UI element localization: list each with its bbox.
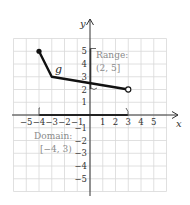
- x-tick-label: 5: [151, 117, 156, 127]
- y-tick-label: −5: [74, 174, 87, 184]
- x-tick-label: −3: [45, 117, 58, 127]
- y-axis-label: y: [79, 18, 86, 29]
- domain-title: Domain:: [34, 131, 72, 141]
- y-tick-label: 4: [82, 59, 87, 69]
- y-tick-label: −3: [74, 148, 87, 158]
- x-tick-label: −2: [58, 117, 71, 127]
- graph-of-g: x y −5−4−3−2−112345 54321−1−2−3−4−5 g Ra…: [0, 0, 190, 205]
- x-axis-label: x: [176, 118, 182, 129]
- x-tick-label: 3: [126, 117, 131, 127]
- range-value: (2, 5]: [96, 63, 120, 73]
- domain-value: [−4, 3): [40, 144, 72, 154]
- x-tick-label: −4: [33, 117, 46, 127]
- y-tick-label: −1: [74, 123, 87, 133]
- y-tick-label: −2: [74, 136, 87, 146]
- open-endpoint: [126, 87, 131, 92]
- x-tick-label: 1: [100, 117, 105, 127]
- y-tick-label: 5: [82, 46, 87, 56]
- function-label-g: g: [55, 63, 62, 76]
- closed-endpoint: [36, 49, 41, 54]
- range-paren: [91, 88, 97, 90]
- range-title: Range:: [96, 50, 128, 60]
- x-tick-labels: −5−4−3−2−112345: [20, 117, 156, 127]
- x-tick-label: −5: [20, 117, 33, 127]
- x-tick-label: 4: [138, 117, 143, 127]
- x-tick-label: 2: [113, 117, 118, 127]
- y-tick-label: 2: [82, 85, 87, 95]
- y-tick-label: 3: [82, 72, 87, 82]
- y-tick-label: 1: [82, 97, 87, 107]
- y-tick-label: −4: [74, 161, 87, 171]
